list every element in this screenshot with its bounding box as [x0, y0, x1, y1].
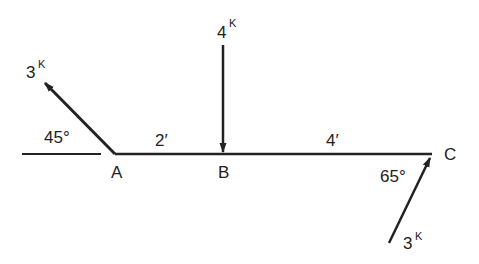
force-a-unit: K: [38, 58, 46, 70]
force-a-magnitude: 3: [26, 63, 35, 82]
force-b-unit: K: [229, 17, 237, 29]
point-a-label: A: [111, 163, 123, 182]
segment-ab-length: 2′: [155, 131, 168, 150]
point-c-label: C: [444, 145, 456, 164]
force-c-magnitude: 3: [403, 234, 412, 253]
angle-c-label: 65°: [380, 167, 406, 186]
force-b-magnitude: 4: [217, 23, 226, 42]
point-b-label: B: [218, 163, 229, 182]
force-c-unit: K: [415, 230, 423, 242]
beam-diagram: 3 K 45° 4 K 3 K 65° 2′ 4′ A B C: [0, 0, 479, 264]
segment-bc-length: 4′: [326, 131, 339, 150]
angle-a-label: 45°: [44, 128, 70, 147]
